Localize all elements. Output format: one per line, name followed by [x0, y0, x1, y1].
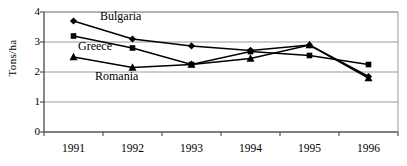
x-axis-tick-labels: 199119921993199419951996	[0, 142, 407, 162]
data-point-greece-1992	[130, 45, 136, 51]
data-point-greece-1991	[71, 33, 77, 39]
x-tick-label-1994: 1994	[226, 142, 276, 155]
x-tick-label-1993: 1993	[167, 142, 217, 155]
series-label-romania: Romania	[95, 70, 138, 83]
data-point-bulgaria-1991	[70, 17, 77, 24]
series-label-greece: Greece	[78, 40, 112, 53]
data-point-bulgaria-1993	[188, 42, 195, 49]
series-line-greece	[74, 36, 369, 65]
series-label-bulgaria: Bulgaria	[100, 10, 141, 23]
x-tick-label-1992: 1992	[108, 142, 158, 155]
x-tick-label-1995: 1995	[285, 142, 335, 155]
data-point-greece-1996	[366, 62, 372, 68]
chart-container: Tons/ha 01234 199119921993199419951996 B…	[0, 0, 407, 166]
data-point-greece-1995	[307, 53, 313, 59]
x-tick-label-1991: 1991	[49, 142, 99, 155]
data-point-romania-1991	[70, 53, 78, 60]
data-point-greece-1994	[248, 49, 254, 55]
x-tick-label-1996: 1996	[344, 142, 394, 155]
